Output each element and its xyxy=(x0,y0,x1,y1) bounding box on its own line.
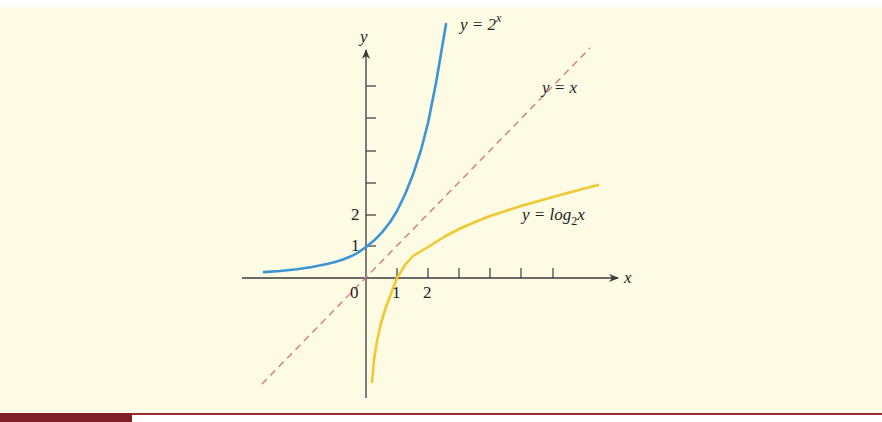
y-tick-label-2: 2 xyxy=(351,205,360,224)
y-axis-label: y xyxy=(358,27,368,46)
y-ticks xyxy=(366,86,376,246)
log-curve-label: y = log2x xyxy=(520,205,585,228)
exp-curve xyxy=(264,24,446,272)
exp-curve-label: y = 2x xyxy=(458,11,502,34)
x-axis-label: x xyxy=(623,268,632,287)
x-ticks xyxy=(397,268,553,278)
x-tick-label-1: 1 xyxy=(392,283,401,302)
x-tick-label-2: 2 xyxy=(423,283,432,302)
graph: y x 0 1 2 1 2 y = 2x y = x y = log2x xyxy=(0,0,882,422)
identity-line-label: y = x xyxy=(540,78,578,97)
origin-label: 0 xyxy=(350,283,359,302)
y-tick-label-1: 1 xyxy=(351,236,360,255)
